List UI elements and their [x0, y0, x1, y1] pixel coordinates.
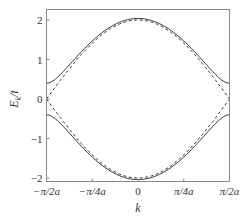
- solid-band-curve: [47, 18, 230, 83]
- axes-frame: [47, 10, 230, 182]
- y-tick-label: 0: [37, 93, 43, 105]
- x-tick-label: 0: [135, 185, 141, 197]
- x-axis-label: k: [135, 201, 141, 215]
- y-tick-label: 2: [37, 14, 43, 26]
- ylabel-tail: /t: [7, 90, 21, 98]
- band-structure-chart: 210−1−2 −π/2a−π/4a0π/4aπ/2a Ek/t k: [0, 0, 251, 218]
- plot-curves: [47, 18, 230, 179]
- x-tick-label: −π/2a: [33, 185, 60, 197]
- y-axis-label: Ek/t: [7, 90, 23, 109]
- x-tick-label: π/2a: [220, 185, 240, 197]
- solid-band-curve: [47, 115, 230, 180]
- svg-text:Ek/t: Ek/t: [7, 90, 23, 109]
- y-tick-label: −1: [31, 133, 43, 145]
- y-tick-label: −2: [31, 172, 43, 184]
- x-tick-label: π/4a: [174, 185, 194, 197]
- x-tick-label: −π/4a: [79, 185, 106, 197]
- y-tick-label: 1: [37, 54, 43, 66]
